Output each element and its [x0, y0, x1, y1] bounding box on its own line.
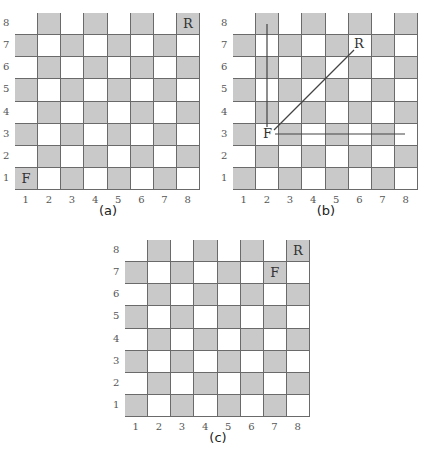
square-7-5	[154, 79, 177, 101]
square-3-3	[61, 124, 84, 146]
square-7-3	[264, 351, 287, 373]
square-8-4	[395, 102, 418, 124]
square-8-8	[395, 13, 418, 35]
square-7-2	[264, 373, 287, 395]
square-8-6	[177, 57, 200, 79]
square-4-2	[302, 146, 325, 168]
row-label: 1	[3, 172, 9, 183]
square-1-5	[15, 79, 38, 101]
square-5-3	[326, 124, 349, 146]
square-4-6	[194, 284, 217, 306]
square-1-1	[233, 168, 256, 190]
row-label: 3	[221, 128, 227, 139]
square-4-5	[84, 79, 107, 101]
square-8-2	[395, 146, 418, 168]
square-3-2	[61, 146, 84, 168]
chessboard-c: RF	[125, 240, 310, 417]
square-8-6	[395, 57, 418, 79]
square-7-6	[372, 57, 395, 79]
square-8-5	[287, 306, 310, 328]
square-7-3	[372, 124, 395, 146]
square-2-1	[256, 168, 279, 190]
square-1-7	[15, 35, 38, 57]
square-7-2	[154, 146, 177, 168]
square-3-2	[279, 146, 302, 168]
square-3-8	[61, 13, 84, 35]
square-3-8	[171, 240, 194, 262]
square-4-8	[302, 13, 325, 35]
square-7-8	[372, 13, 395, 35]
square-6-5	[131, 79, 154, 101]
square-1-4	[15, 102, 38, 124]
row-label: 3	[113, 355, 119, 366]
row-label: 5	[113, 310, 119, 321]
col-label: 8	[184, 194, 190, 205]
square-6-8	[131, 13, 154, 35]
square-4-6	[302, 57, 325, 79]
row-label: 4	[221, 106, 227, 117]
col-label: 1	[133, 421, 139, 432]
square-7-6	[264, 284, 287, 306]
square-6-1	[241, 395, 264, 417]
square-1-1: F	[15, 168, 38, 190]
square-6-1	[131, 168, 154, 190]
square-6-5	[349, 79, 372, 101]
square-8-1	[177, 168, 200, 190]
piece-r: R	[183, 16, 193, 31]
square-4-8	[194, 240, 217, 262]
square-5-6	[108, 57, 131, 79]
square-4-4	[302, 102, 325, 124]
square-5-5	[326, 79, 349, 101]
square-5-4	[326, 102, 349, 124]
square-2-8	[38, 13, 61, 35]
square-6-3	[241, 351, 264, 373]
square-5-2	[326, 146, 349, 168]
square-1-4	[233, 102, 256, 124]
square-7-4	[372, 102, 395, 124]
square-4-6	[84, 57, 107, 79]
caption-c: (c)	[198, 430, 238, 445]
square-3-4	[171, 329, 194, 351]
square-3-7	[61, 35, 84, 57]
square-1-8	[125, 240, 148, 262]
square-7-5	[372, 79, 395, 101]
square-8-3	[395, 124, 418, 146]
square-4-1	[84, 168, 107, 190]
square-8-1	[395, 168, 418, 190]
square-6-8	[241, 240, 264, 262]
square-6-8	[349, 13, 372, 35]
square-4-3	[84, 124, 107, 146]
square-3-6	[171, 284, 194, 306]
square-6-3	[349, 124, 372, 146]
square-8-7	[395, 35, 418, 57]
caption-a: (a)	[88, 203, 128, 218]
square-1-3	[125, 351, 148, 373]
square-2-1	[38, 168, 61, 190]
square-2-6	[256, 57, 279, 79]
square-7-4	[264, 329, 287, 351]
square-5-1	[218, 395, 241, 417]
square-2-5	[38, 79, 61, 101]
square-1-3	[15, 124, 38, 146]
piece-f-b: F	[263, 126, 272, 141]
square-3-2	[171, 373, 194, 395]
square-3-6	[279, 57, 302, 79]
square-4-2	[84, 146, 107, 168]
square-8-5	[177, 79, 200, 101]
square-5-7	[108, 35, 131, 57]
square-5-8	[326, 13, 349, 35]
square-3-1	[279, 168, 302, 190]
square-7-7: F	[264, 262, 287, 284]
row-label: 6	[3, 61, 9, 72]
square-7-7	[154, 35, 177, 57]
square-2-8	[256, 13, 279, 35]
square-5-1	[326, 168, 349, 190]
square-6-6	[131, 57, 154, 79]
square-1-7	[233, 35, 256, 57]
square-3-5	[279, 79, 302, 101]
col-label: 2	[46, 194, 52, 205]
square-2-6	[148, 284, 171, 306]
square-5-8	[108, 13, 131, 35]
square-3-6	[61, 57, 84, 79]
square-1-4	[125, 329, 148, 351]
